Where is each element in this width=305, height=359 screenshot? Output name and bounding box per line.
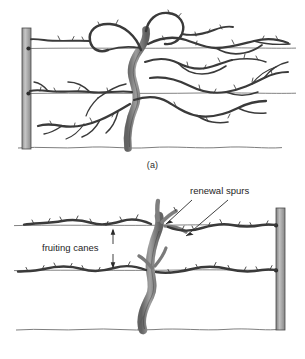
renewal-spurs-label: renewal spurs [190,185,249,196]
trellis-post-a [22,28,31,149]
wire-staple-a-upper [26,46,30,50]
panel-a-illustration [0,0,305,160]
fruiting-canes-annotation: fruiting canes [42,229,115,269]
fruiting-canes-arrowhead-up [111,229,116,235]
panel-b-illustration: renewal spurs fruiting canes [0,180,305,340]
panel-a-caption: (a) [0,160,305,170]
ground-line-a [18,147,282,148]
panel-b-pruned-vine: renewal spurs fruiting canes (b) [0,180,305,359]
fruiting-canes-label: fruiting canes [42,242,99,253]
panel-a-unpruned-vine: (a) [0,0,305,180]
figure-root: (a) [0,0,305,359]
renewal-spurs-arrowhead-1 [166,220,173,224]
vine-canes-a [30,13,290,139]
